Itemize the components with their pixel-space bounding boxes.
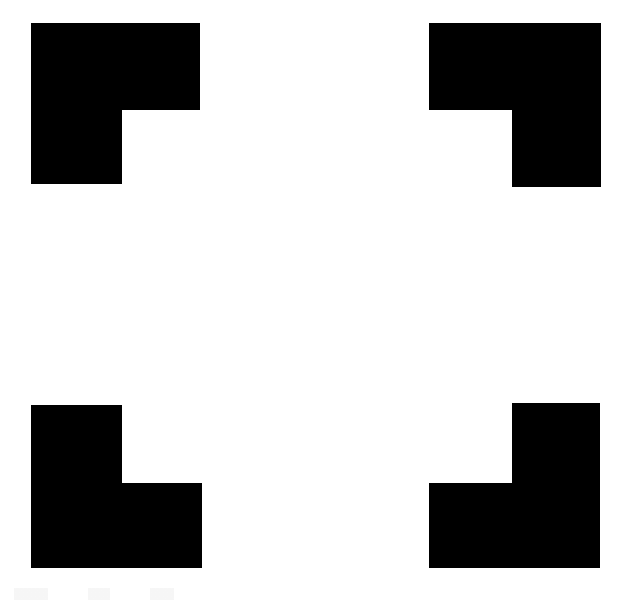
figure-svg [0, 0, 623, 604]
kanizsa-figure-canvas [0, 0, 623, 604]
